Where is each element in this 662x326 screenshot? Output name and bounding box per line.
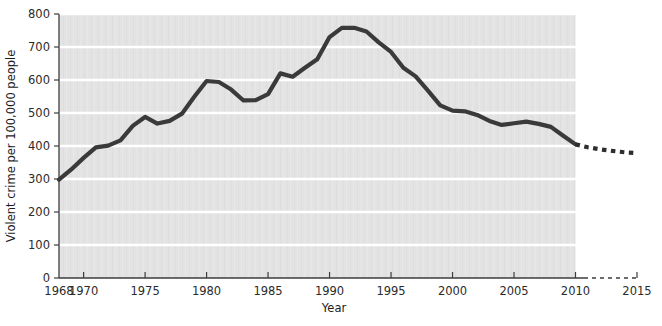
y-axis-tick-label: 0 — [43, 271, 50, 285]
x-axis-tick-label: 1995 — [376, 284, 405, 298]
chart-canvas: 1968197019751980198519901995200020052010… — [0, 0, 662, 326]
y-axis-tick-label: 500 — [28, 106, 50, 120]
x-axis-tick-label: 1970 — [69, 284, 98, 298]
y-axis-tick-label: 100 — [28, 238, 50, 252]
y-axis-tick-label: 700 — [28, 40, 50, 54]
plot-area — [59, 14, 637, 278]
x-axis-tick-label: 2000 — [438, 284, 467, 298]
x-axis-tick-label: 1975 — [130, 284, 159, 298]
x-axis-tick-label: 1980 — [192, 284, 221, 298]
x-axis-tick-label: 2010 — [561, 284, 590, 298]
x-axis-tick-label: 2015 — [622, 284, 651, 298]
violent-crime-line-chart: 1968197019751980198519901995200020052010… — [0, 0, 662, 326]
y-axis-title: Violent crime per 100,000 people — [4, 50, 18, 243]
x-axis-tick-label: 1990 — [315, 284, 344, 298]
y-axis-tick-label: 200 — [28, 205, 50, 219]
y-axis-tick-label: 600 — [28, 73, 50, 87]
x-axis-tick-label: 2005 — [499, 284, 528, 298]
y-axis-tick-label: 300 — [28, 172, 50, 186]
y-axis-tick-label: 400 — [28, 139, 50, 153]
x-axis-tick-label: 1985 — [253, 284, 282, 298]
x-axis-title: Year — [321, 301, 347, 315]
y-axis-tick-labels: 0100200300400500600700800 — [28, 7, 50, 285]
y-axis-tick-label: 800 — [28, 7, 50, 21]
